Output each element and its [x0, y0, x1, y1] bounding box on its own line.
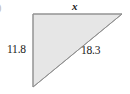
side-label-hypotenuse-18-3: 18.3: [81, 45, 100, 57]
side-label-left-11-8: 11.8: [7, 44, 26, 56]
geometry-figure: ) x 11.8 18.3: [0, 0, 130, 94]
side-label-top-x: x: [72, 1, 78, 12]
